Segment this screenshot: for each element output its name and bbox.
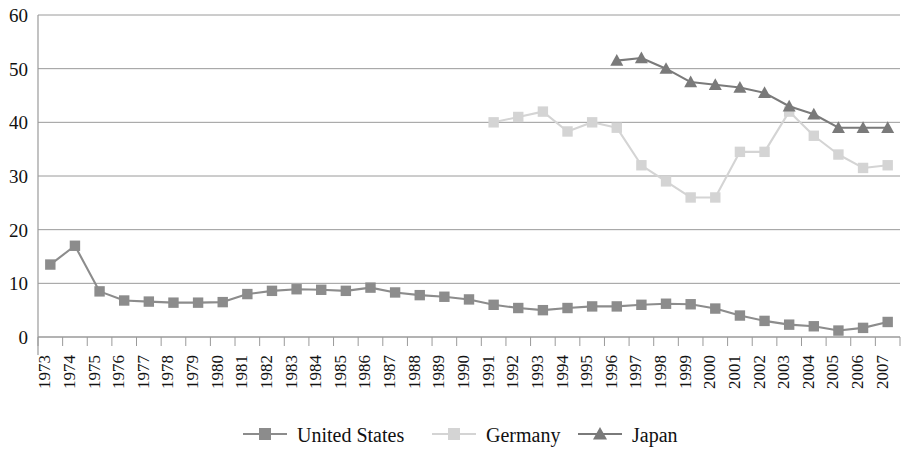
data-point-marker — [612, 301, 622, 311]
chart-container: 0102030405060 19731974197519761977197819… — [0, 0, 909, 453]
data-point-marker — [70, 241, 80, 251]
x-tick-label: 1976 — [109, 355, 128, 389]
data-point-marker — [587, 301, 597, 311]
data-point-marker — [735, 310, 745, 320]
x-tick-label: 1994 — [553, 355, 572, 390]
data-point-marker — [538, 305, 548, 315]
series-group — [45, 51, 894, 335]
x-tick-label: 2003 — [774, 355, 793, 389]
x-tick-label: 1985 — [331, 355, 350, 389]
data-point-marker — [464, 294, 474, 304]
data-point-marker — [882, 160, 892, 170]
y-tick-labels: 0102030405060 — [9, 5, 28, 348]
data-point-marker — [488, 117, 498, 127]
data-point-marker — [415, 290, 425, 300]
data-point-marker — [562, 126, 572, 136]
x-tick-labels: 1973197419751976197719781979198019811982… — [35, 355, 891, 390]
data-point-marker — [636, 300, 646, 310]
x-tick-label: 1975 — [85, 355, 104, 389]
data-point-marker — [710, 192, 720, 202]
y-tick-label: 60 — [9, 5, 28, 26]
legend-marker-square-icon — [448, 428, 460, 440]
x-tick-label: 1984 — [306, 355, 325, 390]
data-point-marker — [858, 163, 868, 173]
x-tick-label: 1988 — [405, 355, 424, 389]
x-tick-label: 2000 — [700, 355, 719, 389]
series-line — [494, 112, 888, 198]
data-point-marker — [193, 297, 203, 307]
data-point-marker — [513, 303, 523, 313]
data-point-marker — [684, 76, 697, 88]
data-point-marker — [291, 284, 301, 294]
x-tick-label: 1997 — [626, 355, 645, 390]
data-point-marker — [882, 317, 892, 327]
data-point-marker — [390, 287, 400, 297]
y-tick-label: 0 — [19, 327, 29, 348]
data-point-marker — [119, 295, 129, 305]
data-point-marker — [833, 149, 843, 159]
x-tick-label: 1996 — [602, 355, 621, 389]
x-tick-label: 1998 — [651, 355, 670, 389]
data-point-marker — [858, 323, 868, 333]
data-point-marker — [783, 100, 796, 112]
data-point-marker — [267, 286, 277, 296]
data-point-marker — [562, 303, 572, 313]
legend-item-japan[interactable]: Japan — [578, 424, 678, 447]
legend-item-united-states[interactable]: United States — [243, 424, 404, 446]
legend-label: United States — [297, 424, 404, 446]
x-tick-label: 2005 — [823, 355, 842, 389]
data-point-marker — [809, 131, 819, 141]
series-japan — [610, 51, 894, 132]
x-tick-label: 1986 — [355, 355, 374, 389]
data-point-marker — [735, 147, 745, 157]
x-tick-label: 2002 — [750, 355, 769, 389]
gridlines-group — [38, 15, 900, 337]
data-point-marker — [710, 303, 720, 313]
line-chart: 0102030405060 19731974197519761977197819… — [0, 0, 909, 453]
data-point-marker — [612, 123, 622, 133]
y-tick-label: 10 — [9, 273, 28, 294]
x-tick-label: 1993 — [528, 355, 547, 389]
data-point-marker — [759, 147, 769, 157]
data-point-marker — [316, 285, 326, 295]
data-point-marker — [513, 112, 523, 122]
series-united-states — [45, 241, 893, 336]
data-point-marker — [661, 176, 671, 186]
data-point-marker — [635, 51, 648, 63]
data-point-marker — [341, 286, 351, 296]
x-tick-label: 1980 — [208, 355, 227, 389]
data-point-marker — [809, 321, 819, 331]
data-point-marker — [94, 286, 104, 296]
y-tick-label: 20 — [9, 220, 28, 241]
x-tick-label: 1992 — [503, 355, 522, 389]
x-tick-label: 1981 — [232, 355, 251, 389]
series-germany — [488, 106, 892, 202]
data-point-marker — [685, 299, 695, 309]
x-tick-label: 1991 — [479, 355, 498, 389]
data-point-marker — [242, 289, 252, 299]
data-point-marker — [784, 319, 794, 329]
y-tick-label: 30 — [9, 166, 28, 187]
x-tick-label: 1989 — [429, 355, 448, 389]
x-tick-label: 2004 — [799, 355, 818, 390]
data-point-marker — [538, 106, 548, 116]
x-tick-label: 1990 — [454, 355, 473, 389]
data-point-marker — [168, 297, 178, 307]
x-tick-label: 1974 — [60, 355, 79, 390]
x-tick-label: 2007 — [873, 355, 892, 390]
data-point-marker — [636, 160, 646, 170]
data-point-marker — [45, 259, 55, 269]
data-point-marker — [488, 300, 498, 310]
x-tick-label: 1977 — [134, 355, 153, 390]
x-tick-label: 1978 — [158, 355, 177, 389]
data-point-marker — [439, 292, 449, 302]
x-tick-label: 2006 — [848, 355, 867, 389]
data-point-marker — [365, 282, 375, 292]
data-point-marker — [218, 297, 228, 307]
x-tick-label: 1987 — [380, 355, 399, 390]
data-point-marker — [661, 299, 671, 309]
x-axis — [38, 337, 900, 346]
y-tick-label: 40 — [9, 112, 28, 133]
data-point-marker — [660, 62, 673, 74]
legend-item-germany[interactable]: Germany — [432, 424, 560, 447]
